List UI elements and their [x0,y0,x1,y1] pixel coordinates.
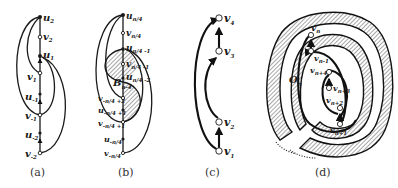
vertex-um1 [38,92,41,95]
vertex-v-n4 [121,31,124,34]
vertex-vn1 [337,121,342,126]
vertex-v2 [216,119,222,125]
curve-v1-v4 [195,19,219,150]
label-v-n4-1: vn/4 -1 [126,59,149,70]
vertex-u-n4-2 [121,76,124,79]
label-um2: u-2 [25,129,39,141]
curve-u1-vm1 [40,57,55,115]
label-um1: u-1 [25,91,38,103]
panel-d: vn vn-1 vn+4 vn+3 vn+2 vn+1 On (d) [267,12,393,179]
caption-c: (c) [205,166,220,179]
vertex-v1 [38,71,42,75]
dotted-continuation-1 [276,142,296,154]
vertex-vn [308,32,313,37]
vertex-u1 [38,54,42,58]
vertex-vn-1 [308,48,313,53]
label-u-n4: un/4 [126,11,143,22]
label-vm1: v-1 [25,110,37,122]
curve-v2-v3 [205,58,218,118]
panel-c: v4 v3 v2 v1 (c) [195,12,235,179]
caption-b: (b) [118,166,134,179]
vertex-v-mn4 [121,151,124,154]
vertex-u2 [38,15,42,19]
caption-a: (a) [30,166,45,179]
vertex-vn2 [337,105,342,110]
panel-a: u2 v2 u1 v1 u-1 v-1 u-2 v-2 (a) [17,12,66,179]
vertex-v4 [216,15,222,21]
vertex-v1 [216,148,222,154]
hatched-band-inner [291,35,373,139]
figure-canvas: u2 v2 u1 v1 u-1 v-1 u-2 v-2 (a) [0,0,398,188]
vertex-v2 [38,35,42,39]
vertex-u-n4 [121,13,125,17]
label-u-mn4-1: u-n/4 +1 [98,105,126,116]
vertex-vn4 [326,69,331,74]
label-u1: u1 [43,49,54,61]
label-v1: v1 [27,71,37,83]
vertex-vm1 [38,113,42,117]
label-v-n4: vn/4 [126,28,141,39]
label-v1: v1 [224,145,234,159]
label-v3: v3 [224,45,234,59]
vertex-vm2 [38,151,42,155]
label-v2: v2 [224,116,234,130]
label-v-mn4-1: v-n/4 +1 [98,118,125,129]
label-v-mn4: v-n/4 [104,148,121,159]
label-u2: u2 [43,12,54,24]
label-v-mn4-2: v-n/4 +2 [98,93,125,104]
label-vn4: vn+4 [310,65,327,76]
label-vm2: v-2 [25,148,37,160]
label-v4: v4 [224,12,234,26]
vertex-u-n4-1 [121,47,125,51]
vertex-v-n4-1 [121,62,124,65]
label-u-n4-1: un/4 -1 [126,43,150,54]
label-v2: v2 [43,31,53,43]
label-u-mn4: u-n/4 [104,134,122,145]
curve-u2-v1 [27,17,40,73]
caption-d: (d) [315,166,331,179]
vertex-v3 [216,48,222,54]
vertex-vn3 [326,85,331,90]
label-vn3: vn+3 [333,83,350,94]
vertex-um2 [38,131,41,134]
panel-b: un/4 vn/4 un/4 -1 vn/4 -1 un/4 -2 v-n/4 … [96,11,152,179]
label-vn2: vn+2 [326,95,343,106]
